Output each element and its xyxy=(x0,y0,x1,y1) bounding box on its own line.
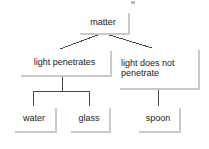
node-water[interactable]: water xyxy=(13,106,55,131)
node-light-does-not-penetrate-label: light does not penetrate xyxy=(118,58,198,79)
diagram-canvas: matter light penetrates light does not p… xyxy=(0,0,209,149)
edge-matter-to-penetrates xyxy=(60,33,103,49)
node-spoon-label: spoon xyxy=(143,113,174,124)
node-light-penetrates[interactable]: light penetrates xyxy=(19,49,110,75)
node-water-label: water xyxy=(20,113,48,124)
node-light-does-not-penetrate[interactable]: light does not penetrate xyxy=(118,48,198,88)
node-glass[interactable]: glass xyxy=(69,106,109,131)
node-glass-label: glass xyxy=(75,113,102,124)
node-spoon[interactable]: spoon xyxy=(137,106,179,131)
edge-matter-to-no-penetrate xyxy=(103,33,152,48)
node-matter[interactable]: matter xyxy=(78,11,128,33)
crop-artifact xyxy=(131,1,135,4)
node-light-penetrates-label: light penetrates xyxy=(31,57,99,68)
node-matter-label: matter xyxy=(87,17,119,28)
